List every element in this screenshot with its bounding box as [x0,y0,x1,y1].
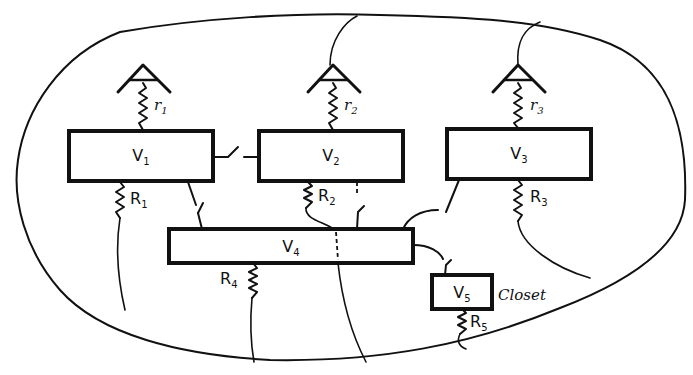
label-R4-sub: 4 [231,279,237,290]
switch-v4-v5 [413,245,443,259]
resistor-R3 [514,180,522,221]
label-R2-sub: 2 [329,196,335,207]
resistor-R4 [249,263,257,298]
label-R4: R4 [220,269,238,290]
label-v5-sub: 5 [464,293,470,304]
label-r3: r3 [530,96,544,116]
label-v3-sub: 3 [521,154,527,165]
label-R2-text: R [318,186,329,205]
ground-symbol-1 [118,65,170,92]
label-v1: V1 [69,146,213,167]
label-v2-sub: 2 [333,156,339,167]
enclosure-outline [17,14,686,360]
label-R1-text: R [130,189,141,208]
label-r1: r1 [154,96,168,116]
label-v3-text: V [510,144,521,163]
label-v4-text: V [282,237,293,256]
label-r1-sub: 1 [161,105,167,116]
label-v3: V3 [447,144,591,165]
label-R2: R2 [318,186,336,207]
resistor-R5 [458,309,466,334]
wire-R4-ground [251,298,254,362]
label-v4-sub: 4 [293,247,299,258]
wire-R1-ground [118,218,125,310]
label-R3: R3 [530,187,548,208]
label-v1-text: V [132,146,143,165]
closet-annotation: Closet [498,286,546,304]
label-r2: r2 [344,96,358,116]
resistor-r3 [514,83,522,128]
wire-R3-ground [518,221,590,278]
resistor-r2 [329,83,337,130]
label-R5: R5 [470,312,488,333]
label-v4: V4 [169,237,413,258]
label-v5: V5 [432,283,492,304]
label-R5-text: R [470,312,481,331]
wire-R2-ground [306,208,335,230]
label-v2: V2 [259,146,403,167]
label-r2-sub: 2 [351,105,357,116]
label-R4-text: R [220,269,231,288]
label-v5-text: V [453,283,464,302]
switch-v1-v2 [213,147,238,157]
label-R3-text: R [530,187,541,206]
ground-wire-3 [518,22,540,65]
resistor-r1 [139,83,147,130]
resistor-R1 [116,182,124,218]
label-R1-sub: 1 [141,199,147,210]
label-R5-sub: 5 [481,322,487,333]
label-v1-sub: 1 [143,156,149,167]
switch-v1-v4 [188,182,196,205]
label-R3-sub: 3 [541,197,547,208]
ground-symbol-3 [493,65,545,92]
diagram-canvas [0,0,693,375]
resistor-R2 [304,182,312,208]
label-R1: R1 [130,189,148,210]
switch-v3-v4 [446,180,459,212]
ground-wire-2 [330,16,357,65]
label-v2-text: V [322,146,333,165]
ground-symbol-2 [308,65,360,92]
label-r3-sub: 3 [537,105,543,116]
